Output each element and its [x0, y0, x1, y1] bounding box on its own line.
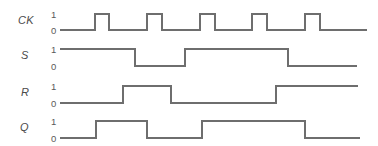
- level-label-low-ck: 0: [51, 25, 56, 36]
- signal-row-q: Q10: [20, 116, 360, 144]
- waveform-ck: [60, 14, 367, 30]
- level-label-high-s: 1: [51, 44, 56, 55]
- signal-label-s: S: [21, 49, 29, 61]
- waveform-s: [60, 49, 357, 66]
- timing-diagram: CK10S10R10Q10: [0, 0, 378, 146]
- signal-row-r: R10: [21, 81, 358, 109]
- level-label-high-ck: 1: [51, 9, 56, 20]
- level-label-low-r: 0: [51, 98, 56, 109]
- level-label-high-r: 1: [51, 81, 56, 92]
- signal-label-q: Q: [20, 121, 29, 133]
- level-label-high-q: 1: [51, 116, 56, 127]
- waveform-q: [60, 121, 360, 138]
- signal-label-r: R: [21, 86, 29, 98]
- level-label-low-s: 0: [51, 61, 56, 72]
- waveform-r: [60, 86, 358, 103]
- signal-row-ck: CK10: [18, 9, 367, 36]
- level-label-low-q: 0: [51, 133, 56, 144]
- signal-row-s: S10: [21, 44, 357, 72]
- signal-label-ck: CK: [18, 14, 34, 26]
- timing-diagram-canvas: CK10S10R10Q10: [0, 0, 378, 146]
